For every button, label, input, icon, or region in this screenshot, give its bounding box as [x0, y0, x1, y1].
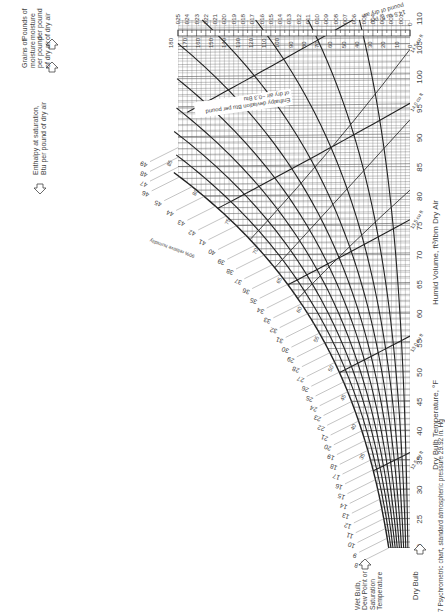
- svg-text:of dry air: of dry air: [44, 12, 52, 40]
- wet-bulb-tick: 60: [295, 306, 303, 314]
- enthalpy-tick: 16: [334, 482, 344, 491]
- svg-text:Btu per pound of dry air: Btu per pound of dry air: [40, 101, 48, 175]
- humidity-ratio-tick: .020: [220, 13, 227, 26]
- enthalpy-tick: 44: [165, 209, 175, 218]
- chart-labels: Pounds ofmoistureper poundof dry airGrai…: [21, 2, 445, 612]
- wet-bulb-tick: 45: [339, 394, 347, 402]
- enthalpy-tick: 20: [323, 443, 333, 452]
- enthalpy-tick: 45: [153, 199, 163, 208]
- humidity-ratio-tick: .018: [239, 13, 246, 26]
- enthalpy-tick: 15: [336, 492, 346, 501]
- grains-tick: 60: [327, 41, 333, 48]
- grains-moisture-label: Grains ofmoistureper poundof dry air: [21, 36, 52, 68]
- wet-bulb-tick: 40: [349, 423, 357, 431]
- pounds-moisture-label: Pounds ofmoistureper poundof dry air: [21, 8, 52, 40]
- enthalpy-tick: 22: [316, 424, 326, 433]
- enthalpy-tick: 47: [139, 180, 149, 189]
- grains-tick: 40: [354, 41, 360, 48]
- enthalpy-tick: 39: [216, 258, 226, 267]
- enthalpy-tick: 41: [197, 238, 207, 247]
- grains-tick: 30: [367, 41, 373, 48]
- enthalpy-tick: 18: [329, 463, 339, 472]
- enthalpy-tick: 46: [140, 189, 150, 198]
- dry-bulb-tick: 60: [415, 309, 424, 318]
- psychrometric-chart: .025.024.023.022.021.020.019.018.017.016…: [0, 0, 445, 613]
- svg-text:Grains of: Grains of: [21, 40, 28, 68]
- wet-bulb-tick: 80: [191, 188, 199, 196]
- humid-volume-axis-label: Humid Volume, ft³/lbm Dry Air: [431, 200, 440, 305]
- humidity-ratio-tick: 0: [406, 22, 413, 26]
- grains-tick: 180: [168, 37, 174, 48]
- enthalpy-tick: 30: [280, 346, 290, 355]
- grains-tick: 110: [261, 38, 267, 48]
- svg-text:of dry air: of dry air: [44, 40, 52, 68]
- enthalpy-tick: 10: [346, 541, 356, 550]
- svg-text:Saturation: Saturation: [369, 579, 376, 610]
- enthalpy-tick: 43: [176, 219, 186, 228]
- humidity-ratio-tick: .024: [183, 13, 190, 26]
- grains-tick: 170: [182, 37, 188, 48]
- grains-tick: 140: [221, 37, 227, 48]
- enthalpy-tick: 8: [353, 562, 359, 570]
- dry-bulb-tick: 110: [415, 12, 424, 25]
- enthalpy-saturation-label: Enthalpy at saturation,Btu per pound of …: [32, 101, 48, 175]
- enthalpy-arrow-icon: [34, 184, 46, 194]
- grains-tick: 80: [301, 41, 307, 48]
- wet-bulb-tick: 50: [327, 364, 335, 372]
- dry-bulb-tick: 90: [415, 133, 424, 142]
- humidity-ratio-tick: .019: [230, 13, 237, 26]
- humidity-ratio-tick: .016: [258, 13, 265, 26]
- enthalpy-tick: 25: [304, 394, 314, 403]
- dry-bulb-tick: 25: [415, 514, 424, 523]
- dry-bulb-tick: 45: [415, 397, 424, 406]
- enthalpy-tick: 49: [139, 160, 149, 169]
- humidity-ratio-tick: .006: [350, 13, 357, 26]
- grains-tick: 50: [341, 41, 347, 48]
- enthalpy-tick: 23: [312, 414, 322, 423]
- wet-bulb-arrow-icon: [359, 559, 371, 569]
- enthalpy-tick: 12: [343, 521, 353, 530]
- enthalpy-tick: 40: [207, 248, 217, 257]
- dry-bulb-tick: 30: [415, 485, 424, 494]
- grains-tick: 70: [314, 41, 320, 48]
- svg-text:Dew Point or: Dew Point or: [361, 570, 368, 610]
- grains-tick: 90: [288, 41, 294, 48]
- humidity-ratio-tick: .012: [295, 13, 302, 26]
- humidity-ratio-tick: .023: [193, 13, 200, 26]
- enthalpy-tick: 9: [351, 552, 357, 560]
- enthalpy-tick: 11: [345, 531, 354, 540]
- enthalpy-tick: 21: [319, 433, 329, 442]
- rh-curve-label: 90% relative humidity: [148, 238, 195, 260]
- humidity-ratio-tick: .025: [174, 13, 181, 26]
- grains-tick: 130: [235, 37, 241, 48]
- dry-bulb-tick: 40: [415, 426, 424, 435]
- humidity-ratio-tick: .013: [285, 13, 292, 26]
- enthalpy-tick: 33: [262, 316, 272, 325]
- figure-caption: 7 Psychrometric chart, standard atmosphe…: [437, 419, 445, 612]
- enthalpy-tick: 26: [300, 385, 310, 394]
- grains-tick: 100: [274, 37, 280, 48]
- enthalpy-tick: 35: [248, 297, 258, 306]
- enthalpy-tick: 32: [269, 326, 279, 335]
- humidity-ratio-tick: .010: [313, 13, 320, 26]
- wet-bulb-tick: 35: [358, 452, 366, 460]
- enthalpy-tick: 36: [241, 287, 251, 296]
- humidity-ratio-tick: .007: [341, 13, 348, 26]
- wet-bulb-label: Wet Bulb,Dew Point orSaturationTemperatu…: [354, 570, 384, 610]
- enthalpy-tick: 31: [275, 336, 285, 345]
- svg-text:Pounds of: Pounds of: [21, 8, 28, 40]
- enthalpy-tick: 42: [187, 228, 197, 237]
- dry-bulb-tick: 70: [415, 250, 424, 259]
- enthalpy-tick: 37: [233, 277, 243, 286]
- grains-tick: 150: [208, 37, 214, 48]
- humidity-ratio-tick: .022: [202, 13, 209, 26]
- enthalpy-tick: 34: [255, 307, 265, 316]
- humidity-ratio-tick: .009: [322, 13, 329, 26]
- enthalpy-tick: 13: [341, 512, 351, 521]
- humidity-ratio-tick: .015: [267, 13, 274, 26]
- svg-text:moisture: moisture: [29, 41, 36, 68]
- dry-bulb-label: Dry Bulb: [411, 571, 420, 600]
- enthalpy-tick: 38: [225, 267, 235, 276]
- grains-tick: 160: [195, 37, 201, 48]
- svg-text:Wet Bulb,: Wet Bulb,: [354, 581, 361, 610]
